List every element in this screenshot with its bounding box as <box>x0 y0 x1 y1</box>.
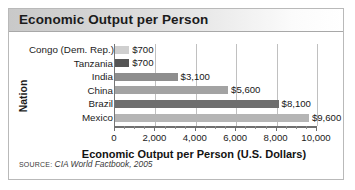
page-title: Economic Output per Person <box>19 12 208 27</box>
source-note: SOURCE: CIA World Factbook, 2005 <box>19 159 153 169</box>
x-tick-minor <box>134 126 135 129</box>
chart-figure: Economic Output per Person Nation Congo … <box>8 8 344 180</box>
x-tick-minor <box>124 126 125 129</box>
y-axis-title: Nation <box>17 70 29 122</box>
x-tick-minor <box>225 126 226 129</box>
x-tick-label: 8,000 <box>264 132 288 143</box>
bar-value-label: $700 <box>132 44 153 55</box>
chart-title-band: Economic Output per Person <box>9 9 343 32</box>
x-tick-minor <box>296 126 297 129</box>
bar-value-label: $3,100 <box>181 71 210 82</box>
bar <box>115 46 129 54</box>
x-tick-label: 4,000 <box>183 132 207 143</box>
x-tick-label: 2,000 <box>142 132 166 143</box>
bar-value-label: $9,600 <box>312 112 341 123</box>
category-label: Tanzania <box>29 58 113 69</box>
x-tick-minor <box>205 126 206 129</box>
x-tick-minor <box>266 126 267 129</box>
category-label-column: Congo (Dem. Rep.)TanzaniaIndiaChinaBrazi… <box>29 44 113 126</box>
bar-value-label: $8,100 <box>282 98 311 109</box>
source-citation: CIA World Factbook, 2005 <box>55 159 153 169</box>
category-label: India <box>29 71 113 82</box>
x-tick-minor <box>215 126 216 129</box>
x-tick-minor <box>286 126 287 129</box>
x-tick-major <box>235 126 236 131</box>
x-tick-major <box>316 126 317 131</box>
bar <box>115 73 178 81</box>
plot-area: $700$700$3,100$5,600$8,100$9,600 <box>114 44 317 126</box>
x-tick-major <box>154 126 155 131</box>
x-tick-minor <box>185 126 186 129</box>
category-label: Mexico <box>29 112 113 123</box>
bar <box>115 86 228 94</box>
x-tick-minor <box>144 126 145 129</box>
category-label: Brazil <box>29 98 113 109</box>
x-tick-label: 10,000 <box>301 132 330 143</box>
bar <box>115 100 279 108</box>
bar-value-label: $5,600 <box>231 84 260 95</box>
category-label: Congo (Dem. Rep.) <box>29 44 113 55</box>
x-tick-minor <box>306 126 307 129</box>
x-tick-label: 0 <box>111 132 116 143</box>
x-tick-major <box>276 126 277 131</box>
x-tick-major <box>195 126 196 131</box>
category-label: China <box>29 85 113 96</box>
bar <box>115 59 129 67</box>
x-tick-major <box>114 126 115 131</box>
x-tick-minor <box>245 126 246 129</box>
x-tick-label: 6,000 <box>223 132 247 143</box>
bar-value-label: $700 <box>132 57 153 68</box>
plot-wrapper: Nation Congo (Dem. Rep.)TanzaniaIndiaChi… <box>9 32 343 180</box>
x-tick-minor <box>255 126 256 129</box>
x-tick-minor <box>165 126 166 129</box>
source-keyword: SOURCE: <box>19 161 52 168</box>
bar <box>115 114 309 122</box>
x-tick-minor <box>175 126 176 129</box>
